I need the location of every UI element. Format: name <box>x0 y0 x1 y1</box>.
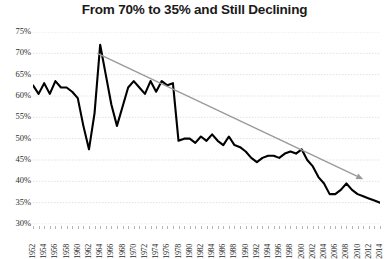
x-tick-label: 1984 <box>208 244 216 259</box>
x-tick-mark <box>50 226 51 229</box>
x-tick-mark <box>330 226 331 229</box>
x-tick-label: 1978 <box>175 244 183 259</box>
x-tick-mark <box>78 226 79 229</box>
x-tick-mark <box>290 226 291 229</box>
x-tick-label: 1966 <box>107 244 115 259</box>
trendline-segment <box>97 53 357 176</box>
chart-container: From 70% to 35% and Still Declining 75%7… <box>0 0 389 259</box>
y-tick-label: 30% <box>1 219 31 228</box>
x-tick-mark <box>335 226 336 229</box>
x-tick-label: 1996 <box>275 244 283 259</box>
x-tick-mark <box>313 226 314 229</box>
x-tick-mark <box>296 226 297 229</box>
x-tick-mark <box>190 226 191 229</box>
x-tick-mark <box>346 226 347 229</box>
x-tick-mark <box>100 226 101 229</box>
x-tick-label: 1964 <box>96 244 104 259</box>
y-tick-label: 45% <box>1 155 31 164</box>
data-series-line <box>33 45 380 203</box>
x-tick-mark <box>33 226 34 229</box>
x-tick-label: 1972 <box>141 244 149 259</box>
x-tick-label: 1994 <box>264 244 272 259</box>
x-tick-label: 1962 <box>85 244 93 259</box>
x-tick-label: 2014 <box>376 244 384 259</box>
x-tick-mark <box>369 226 370 229</box>
x-tick-mark <box>246 226 247 229</box>
y-tick-label: 40% <box>1 176 31 185</box>
x-tick-mark <box>257 226 258 229</box>
x-tick-mark <box>201 226 202 229</box>
x-tick-mark <box>358 226 359 229</box>
x-tick-mark <box>156 226 157 229</box>
x-tick-mark <box>117 226 118 229</box>
trendline <box>97 53 363 179</box>
x-tick-mark <box>363 226 364 229</box>
y-tick-label: 65% <box>1 70 31 79</box>
x-tick-mark <box>380 226 381 229</box>
x-tick-mark <box>55 226 56 229</box>
x-tick-mark <box>134 226 135 229</box>
x-tick-mark <box>279 226 280 229</box>
x-tick-mark <box>106 226 107 229</box>
x-tick-mark <box>218 226 219 229</box>
x-tick-mark <box>67 226 68 229</box>
x-tick-mark <box>123 226 124 229</box>
x-tick-label: 2004 <box>320 244 328 259</box>
chart-plot-svg <box>33 32 380 224</box>
x-tick-label: 1954 <box>40 244 48 259</box>
x-tick-mark <box>83 226 84 229</box>
x-tick-mark <box>307 226 308 229</box>
x-axis: 1952195419561958196019621964196619681970… <box>33 226 380 259</box>
x-tick-mark <box>167 226 168 229</box>
x-tick-mark <box>95 226 96 229</box>
x-tick-mark <box>184 226 185 229</box>
y-tick-label: 60% <box>1 91 31 100</box>
x-tick-mark <box>128 226 129 229</box>
x-tick-mark <box>139 226 140 229</box>
x-tick-label: 1958 <box>63 244 71 259</box>
x-tick-label: 1988 <box>230 244 238 259</box>
x-tick-mark <box>229 226 230 229</box>
x-tick-label: 1976 <box>163 244 171 259</box>
x-tick-label: 2010 <box>354 244 362 259</box>
x-tick-mark <box>195 226 196 229</box>
x-tick-mark <box>268 226 269 229</box>
x-tick-mark <box>173 226 174 229</box>
x-tick-mark <box>89 226 90 229</box>
y-tick-label: 55% <box>1 112 31 121</box>
x-tick-label: 2012 <box>365 244 373 259</box>
x-tick-mark <box>207 226 208 229</box>
x-tick-mark <box>212 226 213 229</box>
y-tick-label: 35% <box>1 198 31 207</box>
x-tick-label: 1986 <box>219 244 227 259</box>
y-tick-label: 50% <box>1 134 31 143</box>
x-tick-mark <box>44 226 45 229</box>
x-tick-mark <box>274 226 275 229</box>
x-tick-label: 2008 <box>342 244 350 259</box>
x-tick-label: 1974 <box>152 244 160 259</box>
x-tick-mark <box>240 226 241 229</box>
x-tick-mark <box>223 226 224 229</box>
x-tick-label: 1968 <box>119 244 127 259</box>
x-tick-label: 2002 <box>309 244 317 259</box>
x-tick-mark <box>61 226 62 229</box>
x-tick-label: 1960 <box>74 244 82 259</box>
x-tick-mark <box>341 226 342 229</box>
x-tick-mark <box>179 226 180 229</box>
x-tick-mark <box>162 226 163 229</box>
x-tick-label: 2000 <box>298 244 306 259</box>
y-tick-label: 75% <box>1 27 31 36</box>
x-tick-label: 1956 <box>51 244 59 259</box>
x-tick-mark <box>151 226 152 229</box>
x-tick-mark <box>39 226 40 229</box>
x-tick-mark <box>262 226 263 229</box>
x-tick-mark <box>352 226 353 229</box>
x-tick-label: 1980 <box>186 244 194 259</box>
x-tick-mark <box>324 226 325 229</box>
x-tick-mark <box>72 226 73 229</box>
x-tick-mark <box>251 226 252 229</box>
x-tick-mark <box>145 226 146 229</box>
x-tick-label: 1992 <box>253 244 261 259</box>
x-tick-mark <box>374 226 375 229</box>
x-tick-mark <box>302 226 303 229</box>
